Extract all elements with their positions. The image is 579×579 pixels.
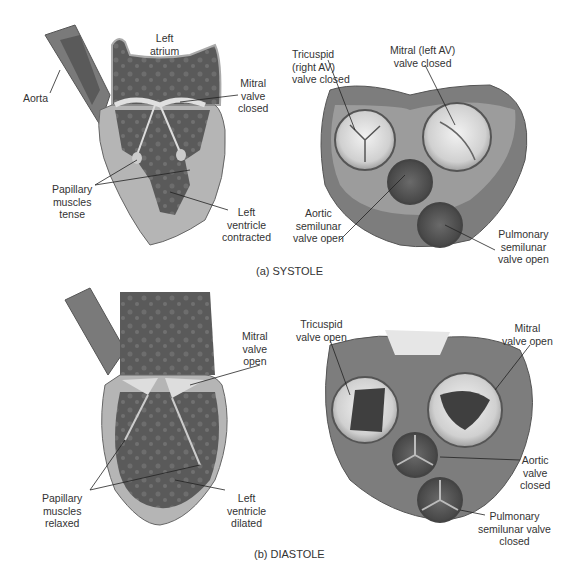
label-line: Tricuspid <box>292 48 350 61</box>
label-line: valve <box>242 343 268 356</box>
label-pulmonary-semilunar-closed: Pulmonary semilunar valve closed <box>478 510 551 548</box>
label-line: Pulmonary <box>478 510 551 523</box>
label-mitral-valve-open: Mitral valve open <box>242 330 268 368</box>
label-left-atrium: Left atrium <box>150 32 179 57</box>
label-line: open <box>242 355 268 368</box>
systole-cross-section <box>321 85 527 247</box>
label-papillary-muscles-tense: Papillary muscles tense <box>52 183 92 221</box>
label-left-ventricle-dilated: Left ventricle dilated <box>227 492 266 530</box>
caption-diastole: (b) DIASTOLE <box>254 548 325 560</box>
label-aorta: Aorta <box>23 92 48 105</box>
label-line: valve closed <box>390 57 455 70</box>
label-line: closed <box>520 479 550 492</box>
label-line: contracted <box>222 231 271 244</box>
heart-valves-figure <box>0 0 579 579</box>
label-line: Left <box>222 206 271 219</box>
label-line: atrium <box>150 45 179 58</box>
label-line: relaxed <box>42 517 82 530</box>
label-left-ventricle-contracted: Left ventricle contracted <box>222 206 271 244</box>
label-mitral-valve-closed: Mitral valve closed <box>238 77 268 115</box>
label-line: semilunar valve <box>478 523 551 536</box>
label-line: valve open <box>498 253 549 266</box>
label-tricuspid-open: Tricuspid valve open <box>296 318 347 343</box>
label-mitral-left-av-closed: Mitral (left AV) valve closed <box>390 44 455 69</box>
label-line: Tricuspid <box>296 318 347 331</box>
diastole-cross-section <box>326 330 533 522</box>
label-line: valve open <box>293 232 344 245</box>
label-line: semilunar <box>498 241 549 254</box>
label-line: Pulmonary <box>498 228 549 241</box>
label-line: muscles <box>52 196 92 209</box>
label-pulmonary-semilunar-open: Pulmonary semilunar valve open <box>498 228 549 266</box>
label-line: valve closed <box>292 73 350 86</box>
label-line: Left <box>227 492 266 505</box>
label-line: Mitral <box>502 322 553 335</box>
label-line: Aorta <box>23 92 48 105</box>
label-line: (right AV) <box>292 61 350 74</box>
label-line: Aortic <box>520 454 550 467</box>
label-line: Mitral <box>242 330 268 343</box>
label-aortic-closed: Aortic valve closed <box>520 454 550 492</box>
label-line: Aortic <box>293 207 344 220</box>
label-tricuspid-closed: Tricuspid (right AV) valve closed <box>292 48 350 86</box>
label-line: semilunar <box>293 220 344 233</box>
label-line: Papillary <box>52 183 92 196</box>
caption-systole: (a) SYSTOLE <box>256 265 323 277</box>
label-line: closed <box>478 535 551 548</box>
label-line: valve <box>520 467 550 480</box>
label-line: valve <box>238 90 268 103</box>
label-line: tense <box>52 208 92 221</box>
label-mitral-open: Mitral valve open <box>502 322 553 347</box>
label-line: Mitral <box>238 77 268 90</box>
label-aortic-semilunar-open: Aortic semilunar valve open <box>293 207 344 245</box>
label-line: dilated <box>227 517 266 530</box>
label-line: closed <box>238 102 268 115</box>
label-line: valve open <box>502 335 553 348</box>
label-papillary-muscles-relaxed: Papillary muscles relaxed <box>42 492 82 530</box>
label-line: Mitral (left AV) <box>390 44 455 57</box>
diastole-longitudinal-heart <box>65 288 227 525</box>
label-line: muscles <box>42 505 82 518</box>
label-line: Left <box>150 32 179 45</box>
label-line: Papillary <box>42 492 82 505</box>
label-line: ventricle <box>227 505 266 518</box>
cropped-caption-sliver <box>0 574 160 579</box>
label-line: ventricle <box>222 219 271 232</box>
label-line: valve open <box>296 331 347 344</box>
